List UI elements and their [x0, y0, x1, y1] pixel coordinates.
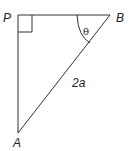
triangle-pab	[18, 15, 110, 133]
right-angle-marker	[18, 15, 32, 32]
vertex-label-p: P	[3, 11, 11, 25]
vertex-label-b: B	[116, 11, 124, 25]
vertex-label-a: A	[12, 136, 21, 150]
triangle-figure: P B A θ 2a	[0, 0, 133, 151]
angle-label-theta: θ	[83, 26, 89, 37]
triangle-diagram: P B A θ 2a	[0, 0, 133, 151]
hypotenuse-label: 2a	[71, 76, 86, 90]
